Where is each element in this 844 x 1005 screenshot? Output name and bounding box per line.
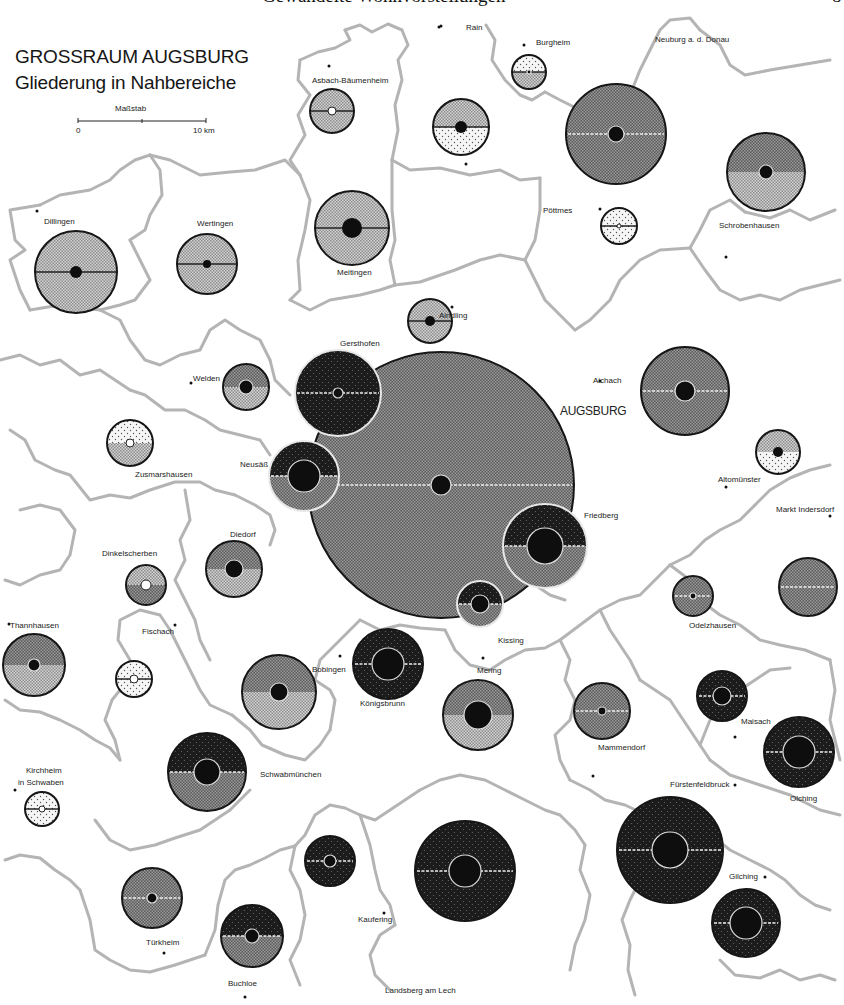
place-label: Kissing	[498, 636, 524, 645]
place-label: Neusäß	[240, 460, 268, 469]
place-label: Burgheim	[536, 38, 571, 47]
place-label: Gilching	[729, 872, 758, 881]
town-dot	[482, 657, 485, 660]
scale-start: 0	[76, 126, 80, 135]
place-label: Maisach	[741, 717, 771, 726]
nahbereich-neus-	[269, 441, 339, 511]
nahbereich-schwabm-nchen	[168, 733, 246, 811]
place-label: Welden	[193, 374, 220, 383]
place-label: Fischach	[142, 627, 174, 636]
district-border	[570, 780, 640, 812]
district-border	[95, 810, 230, 850]
nahbereich-friedberg	[503, 504, 587, 588]
nahbereich-schrobenhausen	[727, 133, 805, 211]
place-label: Diedorf	[230, 530, 257, 539]
district-border	[130, 155, 162, 240]
nahbereich-kirchheim	[25, 792, 59, 826]
district-border	[295, 790, 420, 846]
nahbereich-diedorf	[206, 541, 262, 597]
district-border	[5, 505, 75, 585]
nahbereich-p-ttmes	[601, 208, 637, 244]
map-title: GROSSRAUM AUGSBURG	[15, 46, 249, 68]
nahbereich-gilching	[712, 889, 780, 957]
scale-bar	[78, 118, 206, 123]
district-border	[290, 60, 310, 175]
scale-label: Maßstab	[115, 104, 146, 113]
place-label: Aichach	[593, 376, 621, 385]
place-label: Markt Indersdorf	[776, 505, 835, 514]
nahbereich-neuburg	[566, 84, 666, 184]
nahbereich-odelzhausen	[673, 576, 713, 616]
place-label: Bobingen	[312, 665, 346, 674]
district-border	[0, 355, 130, 390]
district-border	[40, 155, 150, 205]
nahbereich-mering	[443, 680, 513, 750]
nahbereich-kaufering-area	[305, 836, 355, 886]
place-label: Landsberg am Lech	[385, 986, 456, 995]
augsburg-label: AUGSBURG	[560, 404, 626, 418]
place-label: Mammendorf	[598, 743, 646, 752]
district-border	[395, 255, 525, 285]
town-dot	[599, 208, 602, 211]
nahbereich-welden	[223, 364, 269, 410]
district-border	[570, 845, 590, 970]
nahbereich-mammendorf	[574, 683, 630, 739]
district-border	[345, 24, 408, 160]
place-label: Aindling	[439, 311, 467, 320]
district-border	[290, 285, 395, 310]
nahbereich-buchloe	[221, 905, 283, 967]
place-label: Odelzhausen	[689, 621, 736, 630]
place-label: Thannhausen	[10, 621, 59, 630]
nahbereich-altom-nster	[756, 430, 800, 474]
town-dot	[244, 996, 247, 999]
district-border	[175, 490, 210, 660]
nahbereich-olching	[764, 717, 834, 787]
nahbereich-thannhausen	[3, 634, 65, 696]
town-dot	[764, 876, 767, 879]
district-border	[300, 30, 350, 60]
town-dot	[725, 256, 728, 259]
place-label: Kaufering	[358, 915, 392, 924]
nahbereich-dillingen	[35, 231, 117, 313]
district-border	[5, 700, 120, 760]
nahbereich-aichach	[641, 347, 729, 435]
place-label: Mering	[477, 666, 501, 675]
district-border	[100, 310, 270, 365]
district-border	[720, 960, 835, 980]
place-label: Gersthofen	[340, 339, 380, 348]
nahbereich-dinkelscherben	[126, 565, 166, 605]
town-dot	[163, 952, 166, 955]
place-label: Schwabmünchen	[260, 770, 321, 779]
district-border	[290, 175, 310, 300]
town-dot	[14, 789, 17, 792]
nahbereich-gersthofen	[295, 350, 381, 436]
nahbereich-wertingen	[177, 234, 237, 294]
nahbereich-aindling	[408, 299, 452, 343]
map-subtitle: Gliederung in Nahbereiche	[15, 72, 236, 94]
district-border	[525, 178, 540, 260]
scale-end: 10 km	[193, 126, 215, 135]
nahbereich-asbach-b-umenheim	[310, 89, 354, 133]
district-border	[390, 160, 395, 285]
place-label: Schrobenhausen	[719, 221, 780, 230]
district-border	[600, 610, 640, 680]
district-border	[360, 620, 445, 630]
district-border	[555, 640, 575, 780]
place-label: Königsbrunn	[360, 699, 405, 708]
place-label: Kirchheim	[26, 766, 62, 775]
nahbereich-circles	[3, 55, 837, 967]
nahbereich-kissing	[457, 581, 503, 627]
place-label: Pöttmes	[543, 206, 572, 215]
town-dot	[465, 163, 468, 166]
district-border	[150, 155, 300, 175]
place-label: in Schwaben	[18, 778, 64, 787]
town-dot	[451, 306, 454, 309]
district-border	[525, 260, 575, 330]
district-border	[670, 505, 755, 565]
nahbereich-f-rstenfeldbruck	[617, 797, 723, 903]
district-border	[360, 815, 395, 925]
place-label: Türkheim	[146, 938, 180, 947]
place-label: Friedberg	[584, 511, 618, 520]
district-border	[290, 846, 305, 985]
town-dot	[734, 736, 737, 739]
